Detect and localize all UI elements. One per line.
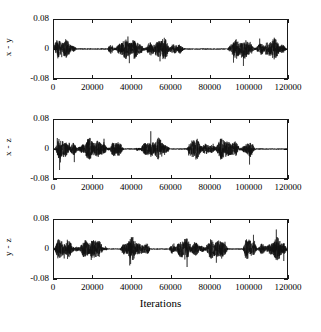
- x-tick-label: 120000: [262, 282, 314, 292]
- y-tick-mark: [53, 179, 57, 180]
- y-tick-mark: [284, 279, 288, 280]
- y-tick-label-2-top: 0.08: [8, 113, 49, 123]
- y-tick-label-3-top: 0.08: [8, 213, 49, 223]
- trace-0: [54, 20, 287, 78]
- y-tick-label-1-top: 0.08: [8, 13, 49, 23]
- x-tick-mark: [288, 219, 289, 223]
- y-tick-mark: [53, 79, 57, 80]
- x-tick-mark: [288, 75, 289, 79]
- trace-1: [54, 120, 287, 178]
- figure-canvas: x - y 0.08 0 -0.08 x - z 0.08 0 -0.08 y …: [0, 0, 321, 332]
- x-tick-mark: [288, 175, 289, 179]
- x-tick-mark: [288, 275, 289, 279]
- x-tick-label: 120000: [262, 82, 314, 92]
- y-tick-mark: [284, 79, 288, 80]
- y-tick-label-1-mid: 0: [8, 43, 49, 53]
- x-tick-mark: [288, 19, 289, 23]
- trace-2: [54, 220, 287, 278]
- x-tick-mark: [288, 119, 289, 123]
- x-axis-label: Iterations: [0, 297, 321, 309]
- y-tick-label-3-mid: 0: [8, 243, 49, 253]
- y-tick-mark: [284, 179, 288, 180]
- y-tick-label-2-mid: 0: [8, 143, 49, 153]
- y-tick-mark: [53, 279, 57, 280]
- x-tick-label: 120000: [262, 182, 314, 192]
